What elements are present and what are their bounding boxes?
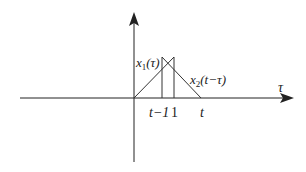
tau-axis-label: τ [278, 80, 284, 95]
tick-t-minus-1: t−1 [149, 105, 169, 120]
convolution-diagram: x1(τ) x2(t−τ) τ t−1 1 t [0, 0, 306, 172]
x2-label: x2(t−τ) [189, 72, 226, 89]
tick-1: 1 [171, 105, 178, 120]
tick-t: t [200, 105, 205, 120]
x1-label: x1(τ) [135, 55, 160, 72]
